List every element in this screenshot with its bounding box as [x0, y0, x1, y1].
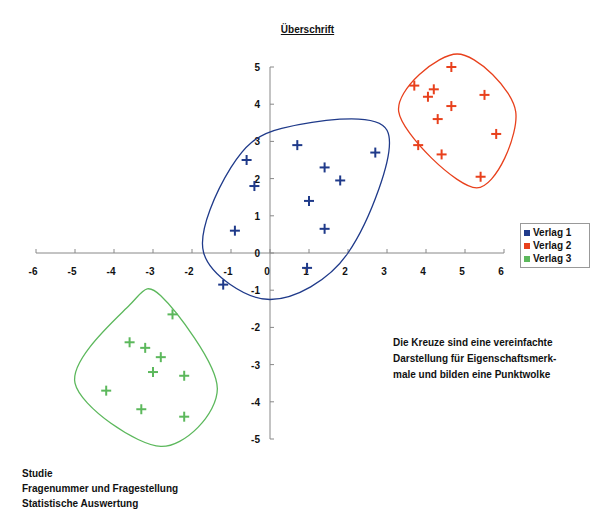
y-tick-label: 4 [254, 99, 260, 110]
data-point [446, 62, 456, 72]
y-tick-label: -1 [251, 285, 260, 296]
cluster-outline-verlag-3 [75, 289, 218, 447]
x-tick-label: -3 [146, 266, 155, 277]
data-point [480, 90, 490, 100]
x-tick-label: 3 [381, 266, 387, 277]
data-point [476, 172, 486, 182]
legend-swatch [524, 256, 530, 262]
y-tick-label: -2 [251, 322, 260, 333]
note-line: Darstellung für Eigenschaftsmerk- [393, 351, 556, 367]
note-line: male und bilden eine Punktwolke [393, 367, 556, 383]
series-verlag-3 [101, 309, 189, 421]
series-verlag-1 [218, 140, 380, 290]
data-point [140, 343, 150, 353]
data-point [423, 92, 433, 102]
annotation-note: Die Kreuze sind eine vereinfachte Darste… [393, 335, 556, 383]
data-point [429, 84, 439, 94]
data-point [148, 367, 158, 377]
data-point [437, 149, 447, 159]
data-point [491, 129, 501, 139]
data-point [179, 412, 189, 422]
y-tick-label: -5 [251, 434, 260, 445]
x-tick-label: 6 [498, 266, 504, 277]
x-tick-label: -1 [224, 266, 233, 277]
data-point [446, 101, 456, 111]
data-point [370, 148, 380, 158]
legend-label: Verlag 1 [533, 227, 571, 238]
y-tick-label: 1 [254, 211, 260, 222]
data-point [156, 352, 166, 362]
data-point [230, 226, 240, 236]
legend-item-verlag-3: Verlag 3 [524, 252, 586, 265]
x-tick-label: -6 [29, 266, 38, 277]
data-point [125, 337, 135, 347]
legend-item-verlag-1: Verlag 1 [524, 226, 586, 239]
x-tick-label: 2 [342, 266, 348, 277]
data-point [320, 224, 330, 234]
x-tick-label: 4 [420, 266, 426, 277]
data-point [335, 175, 345, 185]
data-point [320, 162, 330, 172]
legend-swatch [524, 230, 530, 236]
data-point [101, 386, 111, 396]
y-tick-label: -4 [251, 397, 260, 408]
x-tick-label: 5 [459, 266, 465, 277]
data-point [433, 114, 443, 124]
x-tick-label: 0 [264, 266, 270, 277]
footer-line-study: Studie [22, 466, 178, 481]
note-line: Die Kreuze sind eine vereinfachte [393, 335, 556, 351]
data-point [136, 404, 146, 414]
legend-label: Verlag 3 [533, 253, 571, 264]
data-point [242, 155, 252, 165]
data-point [168, 309, 178, 319]
data-point [292, 140, 302, 150]
y-tick-label: -3 [251, 360, 260, 371]
series-verlag-2 [409, 62, 501, 182]
data-point [179, 371, 189, 381]
cluster-outlines [75, 54, 516, 446]
footer-notes: Studie Fragenummer und Fragestellung Sta… [22, 466, 178, 511]
data-point [304, 196, 314, 206]
legend-label: Verlag 2 [533, 240, 571, 251]
y-tick-label: 0 [254, 248, 260, 259]
footer-line-analysis: Statistische Auswertung [22, 496, 178, 511]
legend: Verlag 1 Verlag 2 Verlag 3 [520, 223, 590, 268]
y-tick-label: 5 [254, 62, 260, 73]
legend-item-verlag-2: Verlag 2 [524, 239, 586, 252]
x-tick-label: -4 [107, 266, 116, 277]
x-tick-label: -5 [68, 266, 77, 277]
footer-line-question: Fragenummer und Fragestellung [22, 481, 178, 496]
legend-swatch [524, 243, 530, 249]
cluster-outline-verlag-2 [399, 54, 516, 188]
x-tick-label: -2 [185, 266, 194, 277]
data-point [409, 81, 419, 91]
